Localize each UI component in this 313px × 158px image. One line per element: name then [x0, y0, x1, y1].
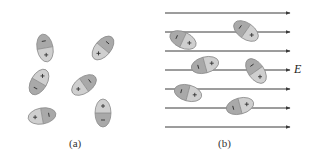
- panel-b-dipole-5: [224, 95, 255, 118]
- panel-a-dipole-3: [68, 70, 100, 99]
- electric-field-label: E: [294, 62, 301, 77]
- panel-b-dipole-0: [167, 27, 199, 53]
- panel-a-dipole-5: [95, 99, 111, 127]
- panel-a-dipole-4: [27, 106, 57, 127]
- panel-a-dipole-2: [25, 66, 53, 98]
- caption-panel-b: (b): [218, 137, 231, 149]
- panel-b-dipole-4: [172, 82, 203, 105]
- panel-a-dipole-1: [88, 32, 118, 64]
- caption-panel-a: (a): [69, 137, 81, 149]
- panel-b-dipole-1: [230, 16, 262, 45]
- panel-b-dipole-3: [241, 55, 270, 87]
- panel-b-dipole-2: [189, 54, 220, 77]
- panel-a-random-dipoles: [25, 32, 118, 127]
- dipole-diagram: [0, 0, 313, 158]
- panel-a-dipole-0: [35, 33, 56, 63]
